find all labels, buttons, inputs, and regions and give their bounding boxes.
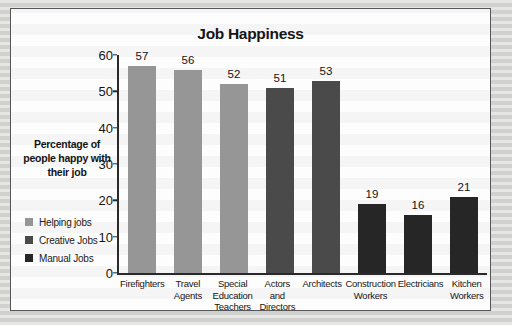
category-label-line: Workers <box>445 290 488 302</box>
y-axis-tick-label: 60 <box>99 48 113 63</box>
legend-swatch-icon <box>25 236 33 244</box>
bar-value-label: 56 <box>174 54 202 66</box>
bar-value-label: 16 <box>404 199 432 211</box>
x-axis-line <box>117 273 487 275</box>
bar-slot: 52 <box>211 51 257 273</box>
plot-area: 5756525153191621 6050403020100 <box>117 51 487 275</box>
bar[interactable]: 19 <box>358 204 386 273</box>
category-label-line: Teachers <box>211 301 254 313</box>
bar-value-label: 21 <box>450 181 478 193</box>
y-axis-tick-mark <box>113 91 117 92</box>
y-axis-tick-mark <box>113 127 117 128</box>
bar-slot: 16 <box>395 51 441 273</box>
bar-slot: 21 <box>441 51 487 273</box>
bar[interactable]: 52 <box>220 84 248 273</box>
category-label-line: Construction <box>345 278 395 290</box>
bar-slot: 57 <box>119 51 165 273</box>
category-label-line: Agents <box>167 290 210 302</box>
y-axis-tick-label: 30 <box>99 157 113 172</box>
bar[interactable]: 21 <box>450 197 478 273</box>
x-axis-category-label: Architects <box>300 278 345 313</box>
x-axis-category-label: TravelAgents <box>166 278 211 313</box>
x-axis-category-label: Actors andDirectors <box>255 278 300 313</box>
y-axis-tick-mark <box>113 54 117 55</box>
bar[interactable]: 16 <box>404 215 432 273</box>
legend-item: Manual Jobs <box>25 250 121 266</box>
bar[interactable]: 57 <box>128 66 156 273</box>
bar[interactable]: 56 <box>174 70 202 273</box>
chart-panel: Job Happiness Percentage of people happy… <box>10 8 491 311</box>
legend-swatch-icon <box>25 218 33 226</box>
bar[interactable]: 51 <box>266 88 294 273</box>
category-label-line: Actors and <box>256 278 299 301</box>
legend-swatch-icon <box>25 254 33 262</box>
bar-slot: 19 <box>349 51 395 273</box>
x-axis-category-labels: FirefightersTravelAgentsSpecialEducation… <box>119 278 489 313</box>
category-label-line: Special <box>211 278 254 290</box>
x-axis-category-label: Electricians <box>397 278 445 313</box>
bar-value-label: 52 <box>220 68 248 80</box>
category-label-line: Firefighters <box>120 278 165 290</box>
chart-title: Job Happiness <box>11 25 490 43</box>
bar-slot: 53 <box>303 51 349 273</box>
category-label-line: Electricians <box>398 278 444 290</box>
category-label-line: Travel <box>167 278 210 290</box>
legend-item: Helping jobs <box>25 214 121 230</box>
x-axis-category-label: SpecialEducationTeachers <box>210 278 255 313</box>
legend-label: Creative Jobs <box>39 235 98 246</box>
bar[interactable]: 53 <box>312 81 340 274</box>
bar-value-label: 53 <box>312 65 340 77</box>
y-axis-tick-mark <box>113 236 117 237</box>
x-axis-category-label: Firefighters <box>119 278 166 313</box>
category-label-line: Workers <box>345 290 395 302</box>
y-axis-tick-mark <box>113 272 117 273</box>
category-label-line: Directors <box>256 301 299 313</box>
x-axis-category-label: KitchenWorkers <box>444 278 489 313</box>
bar-value-label: 51 <box>266 72 294 84</box>
y-axis-tick-label: 20 <box>99 193 113 208</box>
bar-slot: 56 <box>165 51 211 273</box>
y-axis-tick-label: 40 <box>99 120 113 135</box>
legend-label: Manual Jobs <box>39 253 94 264</box>
x-axis-category-label: ConstructionWorkers <box>344 278 396 313</box>
y-axis-tick-label: 10 <box>99 229 113 244</box>
y-axis-tick-mark <box>113 163 117 164</box>
bar-value-label: 19 <box>358 188 386 200</box>
legend-label: Helping jobs <box>39 217 92 228</box>
y-axis-tick-mark <box>113 200 117 201</box>
y-axis-tick-label: 0 <box>106 266 113 281</box>
bar-value-label: 57 <box>128 50 156 62</box>
bar-series: 5756525153191621 <box>119 51 487 273</box>
y-axis-tick-label: 50 <box>99 84 113 99</box>
category-label-line: Kitchen <box>445 278 488 290</box>
bar-slot: 51 <box>257 51 303 273</box>
category-label-line: Education <box>211 290 254 302</box>
category-label-line: Architects <box>301 278 344 290</box>
